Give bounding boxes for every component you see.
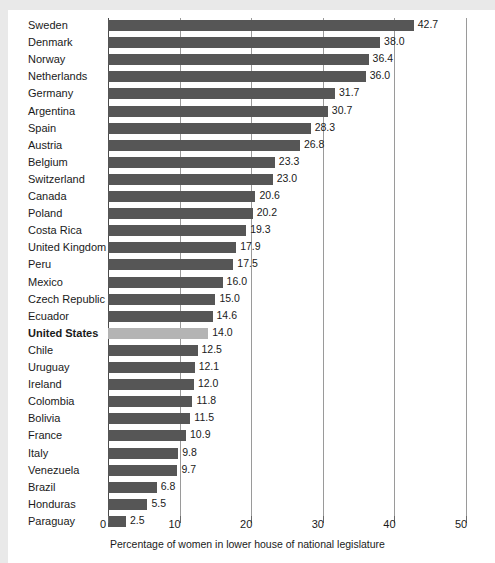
bar-row: 31.7	[108, 86, 466, 103]
bar-row: 10.9	[108, 428, 466, 445]
bar-row: 6.8	[108, 480, 466, 497]
category-label-venezuela: Venezuela	[28, 463, 79, 480]
bar-united-states	[108, 328, 208, 339]
x-tick-label-10: 10	[168, 518, 180, 530]
bar-value-label: 17.9	[240, 240, 260, 253]
bar-belgium	[108, 157, 275, 168]
bar-chile	[108, 345, 198, 356]
category-label-united-states: United States	[28, 326, 98, 343]
category-label-ireland: Ireland	[28, 377, 62, 394]
bar-value-label: 36.4	[373, 52, 393, 65]
category-label-france: France	[28, 428, 62, 445]
bar-sweden	[108, 20, 414, 31]
bar-value-label: 12.0	[198, 377, 218, 390]
bar-row: 12.1	[108, 360, 466, 377]
x-tick-0	[108, 516, 109, 523]
category-label-sweden: Sweden	[28, 18, 68, 35]
category-axis-labels: SwedenDenmarkNorwayNetherlandsGermanyArg…	[28, 18, 106, 516]
bar-value-label: 11.8	[196, 394, 216, 407]
bar-row: 26.8	[108, 138, 466, 155]
bar-denmark	[108, 37, 380, 48]
category-label-belgium: Belgium	[28, 155, 68, 172]
bar-switzerland	[108, 174, 273, 185]
bar-norway	[108, 54, 369, 65]
bar-row: 23.3	[108, 155, 466, 172]
category-label-poland: Poland	[28, 206, 62, 223]
x-axis: 01020304050	[108, 516, 466, 536]
bar-value-label: 31.7	[339, 86, 359, 99]
x-axis-title: Percentage of women in lower house of na…	[0, 538, 495, 550]
bar-row: 9.7	[108, 463, 466, 480]
category-label-austria: Austria	[28, 138, 62, 155]
category-label-switzerland: Switzerland	[28, 172, 85, 189]
bar-value-label: 28.3	[315, 121, 335, 134]
bar-france	[108, 430, 186, 441]
bar-value-label: 17.5	[237, 257, 257, 270]
bar-value-label: 5.5	[151, 497, 166, 510]
bar-value-label: 23.0	[277, 172, 297, 185]
bar-venezuela	[108, 465, 177, 476]
bar-value-label: 38.0	[384, 35, 404, 48]
bar-row: 14.6	[108, 309, 466, 326]
x-tick-label-40: 40	[383, 518, 395, 530]
bar-row: 38.0	[108, 35, 466, 52]
category-label-united-kingdom: United Kingdom	[28, 240, 106, 257]
bar-value-label: 23.3	[279, 155, 299, 168]
category-label-mexico: Mexico	[28, 275, 63, 292]
bar-bolivia	[108, 413, 190, 424]
bar-row: 36.4	[108, 52, 466, 69]
bar-row: 23.0	[108, 172, 466, 189]
category-label-paraguay: Paraguay	[28, 514, 75, 531]
bar-value-label: 42.7	[418, 18, 438, 31]
x-tick-label-30: 30	[312, 518, 324, 530]
bar-united-kingdom	[108, 242, 236, 253]
bar-row: 12.0	[108, 377, 466, 394]
bar-value-label: 12.5	[202, 343, 222, 356]
bar-row: 36.0	[108, 69, 466, 86]
bar-netherlands	[108, 71, 366, 82]
bar-value-label: 10.9	[190, 428, 210, 441]
bar-value-label: 12.1	[199, 360, 219, 373]
category-label-chile: Chile	[28, 343, 53, 360]
bar-ecuador	[108, 311, 213, 322]
bar-chart: SwedenDenmarkNorwayNetherlandsGermanyArg…	[0, 0, 495, 563]
category-label-colombia: Colombia	[28, 394, 74, 411]
bar-row: 12.5	[108, 343, 466, 360]
bar-value-label: 14.6	[217, 309, 237, 322]
bar-value-label: 14.0	[212, 326, 232, 339]
bar-row: 19.3	[108, 223, 466, 240]
category-label-uruguay: Uruguay	[28, 360, 70, 377]
category-label-czech-republic: Czech Republic	[28, 292, 105, 309]
bar-honduras	[108, 499, 147, 510]
bar-row: 11.5	[108, 411, 466, 428]
bar-row: 14.0	[108, 326, 466, 343]
bar-row: 42.7	[108, 18, 466, 35]
bar-value-label: 16.0	[227, 275, 247, 288]
bar-peru	[108, 259, 233, 270]
category-label-denmark: Denmark	[28, 35, 73, 52]
bar-colombia	[108, 396, 192, 407]
bar-austria	[108, 140, 300, 151]
category-label-italy: Italy	[28, 446, 48, 463]
bar-value-label: 36.0	[370, 69, 390, 82]
category-label-costa-rica: Costa Rica	[28, 223, 82, 240]
bar-spain	[108, 123, 311, 134]
bar-value-label: 20.6	[259, 189, 279, 202]
bar-mexico	[108, 277, 223, 288]
category-label-bolivia: Bolivia	[28, 411, 60, 428]
category-label-germany: Germany	[28, 86, 73, 103]
bar-uruguay	[108, 362, 195, 373]
category-label-netherlands: Netherlands	[28, 69, 87, 86]
x-tick-label-50: 50	[455, 518, 467, 530]
bar-row: 20.2	[108, 206, 466, 223]
x-tick-label-20: 20	[240, 518, 252, 530]
bar-row: 17.9	[108, 240, 466, 257]
bar-row: 17.5	[108, 257, 466, 274]
bar-row: 16.0	[108, 275, 466, 292]
gridline-50	[466, 18, 467, 516]
bar-ireland	[108, 379, 194, 390]
bar-poland	[108, 208, 253, 219]
bar-value-label: 9.7	[181, 463, 196, 476]
category-label-honduras: Honduras	[28, 497, 76, 514]
x-tick-label-0: 0	[100, 518, 106, 530]
